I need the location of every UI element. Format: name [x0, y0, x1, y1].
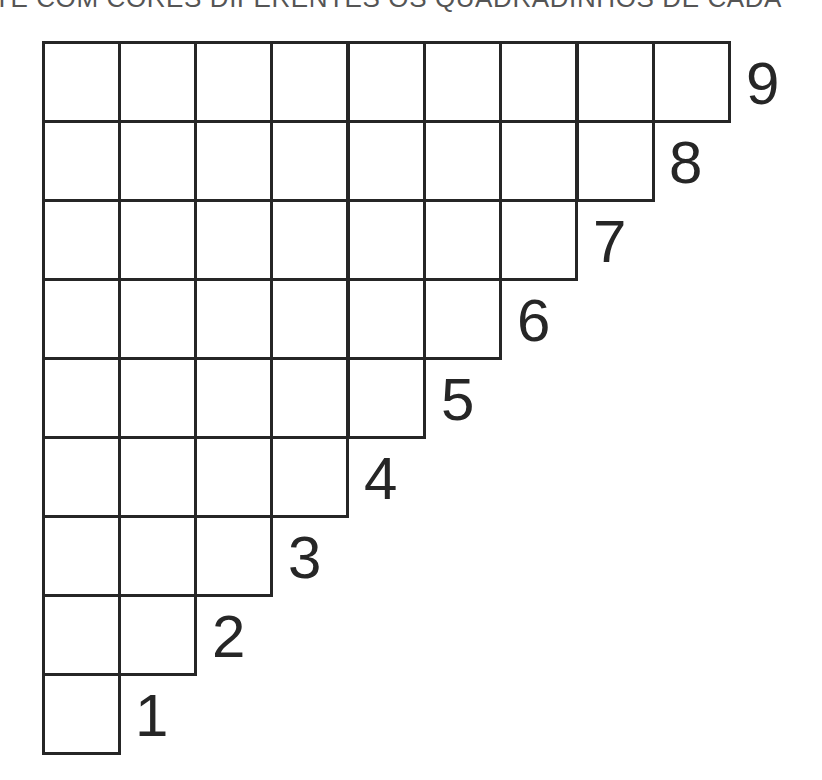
- grid-cell[interactable]: [42, 278, 121, 360]
- grid-cell[interactable]: [423, 199, 502, 281]
- grid-cell[interactable]: [194, 199, 273, 281]
- staircase-grid: 987654321: [0, 0, 822, 780]
- row-count-label: 3: [288, 528, 321, 588]
- grid-cell[interactable]: [499, 199, 578, 281]
- row-count-label: 5: [441, 370, 474, 430]
- grid-cell[interactable]: [270, 357, 349, 439]
- grid-cell[interactable]: [270, 41, 349, 123]
- grid-cell[interactable]: [194, 357, 273, 439]
- row-count-label: 8: [669, 133, 702, 193]
- grid-cell[interactable]: [118, 41, 197, 123]
- grid-cell[interactable]: [42, 199, 121, 281]
- grid-cell[interactable]: [347, 41, 426, 123]
- grid-cell[interactable]: [42, 673, 121, 755]
- grid-cell[interactable]: [118, 199, 197, 281]
- row-count-label: 9: [746, 54, 779, 114]
- grid-cell[interactable]: [194, 278, 273, 360]
- row-count-label: 2: [212, 607, 245, 667]
- grid-cell[interactable]: [118, 515, 197, 597]
- grid-cell[interactable]: [270, 278, 349, 360]
- grid-cell[interactable]: [347, 357, 426, 439]
- grid-cell[interactable]: [347, 120, 426, 202]
- grid-cell[interactable]: [499, 41, 578, 123]
- grid-cell[interactable]: [194, 436, 273, 518]
- grid-cell[interactable]: [118, 594, 197, 676]
- grid-cell[interactable]: [347, 278, 426, 360]
- grid-cell[interactable]: [423, 120, 502, 202]
- grid-cell[interactable]: [118, 120, 197, 202]
- grid-cell[interactable]: [423, 278, 502, 360]
- grid-cell[interactable]: [42, 41, 121, 123]
- grid-cell[interactable]: [42, 357, 121, 439]
- row-count-label: 7: [593, 212, 626, 272]
- grid-cell[interactable]: [652, 41, 731, 123]
- grid-cell[interactable]: [42, 436, 121, 518]
- grid-cell[interactable]: [347, 199, 426, 281]
- grid-cell[interactable]: [194, 515, 273, 597]
- grid-cell[interactable]: [270, 436, 349, 518]
- grid-cell[interactable]: [42, 594, 121, 676]
- grid-cell[interactable]: [118, 357, 197, 439]
- grid-cell[interactable]: [194, 120, 273, 202]
- grid-cell[interactable]: [42, 120, 121, 202]
- row-count-label: 1: [135, 686, 168, 746]
- grid-cell[interactable]: [576, 41, 655, 123]
- grid-cell[interactable]: [194, 41, 273, 123]
- grid-cell[interactable]: [576, 120, 655, 202]
- grid-cell[interactable]: [118, 278, 197, 360]
- row-count-label: 4: [364, 449, 397, 509]
- row-count-label: 6: [517, 291, 550, 351]
- grid-cell[interactable]: [270, 120, 349, 202]
- grid-cell[interactable]: [423, 41, 502, 123]
- grid-cell[interactable]: [270, 199, 349, 281]
- grid-cell[interactable]: [499, 120, 578, 202]
- grid-cell[interactable]: [42, 515, 121, 597]
- grid-cell[interactable]: [118, 436, 197, 518]
